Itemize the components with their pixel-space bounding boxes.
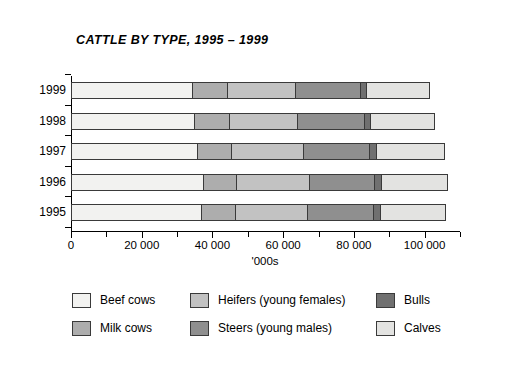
bar-segment	[71, 143, 198, 160]
bar-segment	[236, 174, 310, 191]
legend-swatch	[72, 321, 91, 336]
y-axis-labels: 19991998199719961995	[0, 78, 66, 230]
x-axis-title: '000s	[251, 255, 278, 267]
bar-segment	[303, 143, 370, 160]
bar-segment	[380, 204, 446, 221]
x-axis-tick	[248, 232, 249, 237]
bar-segment	[71, 82, 193, 99]
x-axis-tick	[389, 232, 390, 237]
y-axis-tick-label-1998: 1998	[6, 114, 66, 128]
x-axis-line	[71, 231, 460, 232]
stacked-bar	[71, 143, 445, 160]
legend-label: Beef cows	[100, 293, 155, 307]
x-axis-tick-label: 0	[68, 239, 74, 251]
bar-segment	[197, 143, 231, 160]
legend-label: Bulls	[404, 293, 430, 307]
bar-segment	[194, 113, 230, 130]
bar-segment	[381, 174, 447, 191]
stacked-bar	[71, 174, 448, 191]
bar-segment	[295, 82, 361, 99]
chart-legend: Beef cowsHeifers (young females)BullsMil…	[72, 286, 472, 342]
legend-item: Milk cows	[72, 314, 190, 342]
x-axis-tick	[71, 232, 72, 238]
x-axis-tick-label: 20 000	[124, 239, 159, 251]
legend-label: Heifers (young females)	[218, 293, 345, 307]
bar-segment	[201, 204, 236, 221]
bar-segment	[376, 143, 445, 160]
bar-segment	[231, 143, 304, 160]
x-axis-tick	[283, 232, 284, 238]
bar-segment	[307, 204, 374, 221]
x-axis-tick	[460, 232, 461, 237]
legend-label: Calves	[404, 321, 441, 335]
legend-item: Steers (young males)	[190, 314, 376, 342]
x-axis-tick	[354, 232, 355, 238]
bar-segment	[71, 174, 204, 191]
bar-segment	[309, 174, 375, 191]
plot-area	[71, 78, 459, 230]
bar-segment	[235, 204, 307, 221]
stacked-bar	[71, 82, 430, 99]
legend-label: Milk cows	[100, 321, 152, 335]
x-axis-tick	[212, 232, 213, 238]
x-axis-tick	[142, 232, 143, 238]
chart-figure: CATTLE BY TYPE, 1995 – 1999 199919981997…	[0, 0, 513, 391]
legend-swatch	[190, 293, 209, 308]
bar-segment	[71, 113, 195, 130]
legend-swatch	[376, 293, 395, 308]
bar-segment	[229, 113, 298, 130]
y-axis-tick	[65, 74, 71, 75]
x-axis-tick	[319, 232, 320, 237]
bar-segment	[203, 174, 237, 191]
bar-segment	[71, 204, 202, 221]
legend-item: Calves	[376, 314, 472, 342]
x-axis-tick	[425, 232, 426, 238]
x-axis-tick-label: 40 000	[195, 239, 230, 251]
legend-item: Beef cows	[72, 286, 190, 314]
bar-segment	[366, 82, 431, 99]
x-axis-tick-label: 100 000	[404, 239, 446, 251]
bar-segment	[370, 113, 435, 130]
x-axis-tick-label: 80 000	[336, 239, 371, 251]
x-axis-tick	[106, 232, 107, 237]
bar-segment	[192, 82, 228, 99]
legend-item: Heifers (young females)	[190, 286, 376, 314]
y-axis-tick-label-1995: 1995	[6, 205, 66, 219]
y-axis-tick-label-1996: 1996	[6, 175, 66, 189]
legend-swatch	[376, 321, 395, 336]
y-axis-tick-label-1999: 1999	[6, 83, 66, 97]
legend-label: Steers (young males)	[218, 321, 332, 335]
x-axis-tick	[177, 232, 178, 237]
x-axis-tick-label: 60 000	[266, 239, 301, 251]
legend-swatch	[72, 293, 91, 308]
bar-segment	[297, 113, 365, 130]
legend-swatch	[190, 321, 209, 336]
bar-segment	[227, 82, 296, 99]
stacked-bar	[71, 204, 446, 221]
stacked-bar	[71, 113, 435, 130]
legend-item: Bulls	[376, 286, 472, 314]
y-axis-tick-label-1997: 1997	[6, 144, 66, 158]
chart-title: CATTLE BY TYPE, 1995 – 1999	[76, 33, 268, 47]
